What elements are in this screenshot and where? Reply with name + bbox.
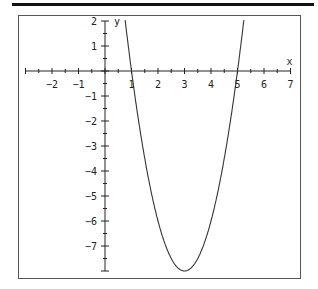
y-tick-label: −6	[85, 216, 97, 227]
y-tick-label: −2	[85, 116, 97, 127]
plot-area: −2−1123456721−1−2−3−4−5−6−7xy	[0, 0, 318, 289]
x-axis-label: x	[286, 56, 292, 67]
y-tick-label: 1	[91, 41, 97, 52]
y-tick-label: −5	[85, 191, 97, 202]
x-tick-label: −1	[72, 79, 84, 90]
y-tick-label: 2	[91, 16, 97, 27]
y-tick-label: −3	[85, 141, 97, 152]
x-tick-label: −2	[46, 79, 58, 90]
x-tick-label: 3	[181, 79, 187, 90]
x-tick-label: 4	[208, 79, 214, 90]
y-tick-label: −7	[85, 241, 97, 252]
x-tick-label: 7	[287, 79, 293, 90]
x-tick-label: 6	[261, 79, 267, 90]
y-tick-label: −1	[85, 91, 97, 102]
parabola-curve	[125, 20, 244, 271]
y-tick-label: −4	[85, 166, 97, 177]
y-axis-label: y	[114, 16, 120, 27]
x-tick-label: 2	[155, 79, 161, 90]
